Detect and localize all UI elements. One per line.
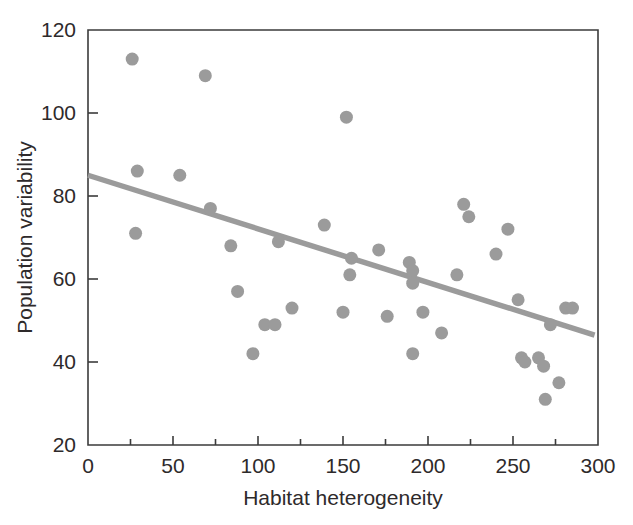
data-point: [126, 53, 139, 66]
x-tick-label: 100: [240, 454, 275, 477]
data-point: [566, 302, 579, 315]
data-point: [131, 165, 144, 178]
data-point: [512, 293, 525, 306]
y-tick-label: 40: [53, 350, 76, 373]
y-tick-label: 80: [53, 184, 76, 207]
x-tick-label: 50: [161, 454, 184, 477]
data-point: [340, 111, 353, 124]
data-point: [231, 285, 244, 298]
data-point: [462, 210, 475, 223]
data-point: [539, 393, 552, 406]
data-point: [381, 310, 394, 323]
data-point: [345, 252, 358, 265]
data-point: [406, 347, 419, 360]
y-tick-label: 100: [41, 101, 76, 124]
x-tick-label: 300: [580, 454, 615, 477]
data-point: [224, 239, 237, 252]
y-tick-label: 120: [41, 18, 76, 41]
x-tick-label: 250: [495, 454, 530, 477]
data-point: [552, 376, 565, 389]
data-point: [450, 268, 463, 281]
x-tick-label: 200: [410, 454, 445, 477]
data-point: [501, 223, 514, 236]
plot-frame: [88, 30, 598, 445]
data-point: [416, 306, 429, 319]
data-point: [457, 198, 470, 211]
data-point: [286, 302, 299, 315]
x-tick-label: 150: [325, 454, 360, 477]
data-points: [126, 53, 579, 406]
y-tick-label: 20: [53, 433, 76, 456]
y-tick-label: 60: [53, 267, 76, 290]
data-point: [173, 169, 186, 182]
data-point: [204, 202, 217, 215]
data-point: [406, 264, 419, 277]
data-point: [537, 360, 550, 373]
plot-canvas: 05010015020025030020406080100120Habitat …: [0, 0, 633, 525]
data-point: [544, 318, 557, 331]
axis-labels: 05010015020025030020406080100120Habitat …: [13, 18, 616, 509]
data-point: [435, 326, 448, 339]
data-point: [272, 235, 285, 248]
data-point: [518, 356, 531, 369]
scatter-plot-figure: 05010015020025030020406080100120Habitat …: [0, 0, 633, 525]
axes: [88, 30, 598, 445]
data-point: [343, 268, 356, 281]
data-point: [129, 227, 142, 240]
data-point: [337, 306, 350, 319]
data-point: [372, 243, 385, 256]
data-point: [269, 318, 282, 331]
y-axis-title: Population variability: [13, 141, 36, 334]
data-point: [199, 69, 212, 82]
data-point: [406, 277, 419, 290]
data-point: [246, 347, 259, 360]
x-tick-label: 0: [82, 454, 94, 477]
data-point: [490, 248, 503, 261]
x-axis-title: Habitat heterogeneity: [243, 486, 443, 509]
data-point: [318, 219, 331, 232]
